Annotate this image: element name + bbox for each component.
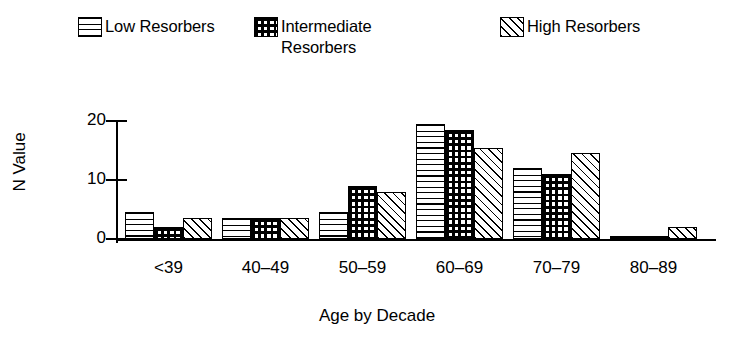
bar-high-resorbers-7079 [571, 153, 600, 239]
x-axis-tick-label: 50–59 [309, 258, 416, 278]
bar-intermediate-resorbers-4049 [251, 218, 280, 239]
x-axis-tick-label: 60–69 [406, 258, 513, 278]
x-axis-tick-label: <39 [115, 258, 222, 278]
x-axis-tick-label: 40–49 [212, 258, 319, 278]
x-axis-title: Age by Decade [0, 306, 754, 326]
x-axis-baseline [116, 239, 716, 241]
bar-intermediate-resorbers-7079 [542, 174, 571, 239]
bar-intermediate-resorbers-39 [154, 227, 183, 239]
bar-low-resorbers-5059 [319, 212, 348, 239]
x-axis-tick-label: 80–89 [600, 258, 707, 278]
bar-series-container [0, 0, 754, 239]
bar-intermediate-resorbers-5059 [348, 186, 377, 239]
bar-chart: N Value Age by Decade 01020 <3940–4950–5… [0, 0, 754, 350]
bar-high-resorbers-6069 [474, 148, 503, 239]
bar-low-resorbers-4049 [222, 218, 251, 239]
bar-intermediate-resorbers-8089 [639, 236, 668, 239]
x-axis-tick-label: 70–79 [503, 258, 610, 278]
bar-high-resorbers-5059 [377, 192, 406, 239]
bar-high-resorbers-39 [183, 218, 212, 239]
bar-low-resorbers-39 [125, 212, 154, 239]
bar-high-resorbers-8089 [668, 227, 697, 239]
bar-intermediate-resorbers-6069 [445, 130, 474, 239]
bar-low-resorbers-8089 [610, 236, 639, 239]
bar-high-resorbers-4049 [280, 218, 309, 239]
bar-low-resorbers-6069 [416, 124, 445, 239]
bar-low-resorbers-7079 [513, 168, 542, 239]
